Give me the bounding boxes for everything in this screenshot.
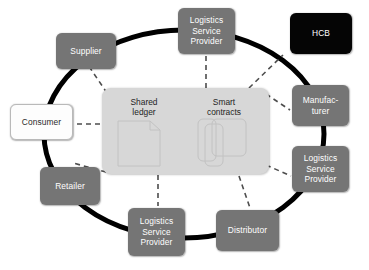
stacked-documents-icon (198, 119, 246, 166)
dashed-link-distributor (239, 176, 250, 208)
node-label: Logistics Service Provider (140, 216, 173, 247)
document-page-icon (118, 121, 160, 166)
node-label: Manufac- turer (303, 95, 339, 116)
dashed-link-hcb (249, 55, 283, 88)
node-label: Distributor (228, 225, 267, 235)
diagram-canvas: Shared ledger Smart contracts Logistics … (0, 0, 369, 270)
node-consumer[interactable]: Consumer (10, 104, 73, 140)
node-logistics-right[interactable]: Logistics Service Provider (292, 146, 349, 192)
dashed-link-logistics-right (266, 165, 291, 176)
node-label: Logistics Service Provider (304, 153, 337, 184)
node-hcb[interactable]: HCB (290, 13, 352, 54)
node-logistics-bottom[interactable]: Logistics Service Provider (128, 208, 185, 256)
node-retailer[interactable]: Retailer (40, 167, 100, 205)
node-label: Retailer (55, 181, 85, 191)
node-label: Logistics Service Provider (190, 15, 223, 46)
node-label: HCB (312, 28, 330, 38)
shared-platform-panel: Shared ledger Smart contracts (102, 88, 269, 174)
node-logistics-top[interactable]: Logistics Service Provider (178, 8, 235, 54)
node-distributor[interactable]: Distributor (216, 210, 279, 251)
node-supplier[interactable]: Supplier (56, 33, 116, 69)
node-label: Supplier (70, 46, 102, 56)
smart-contracts-label: Smart contracts (188, 97, 260, 118)
node-label: Consumer (22, 117, 61, 127)
dashed-link-manufacturer (266, 94, 290, 110)
node-manufacturer[interactable]: Manufac- turer (292, 85, 349, 126)
shared-ledger-label: Shared ledger (112, 97, 176, 118)
